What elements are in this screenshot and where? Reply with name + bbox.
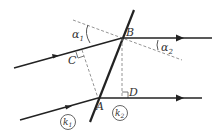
- label-point-a: A: [95, 100, 104, 113]
- label-region-k1: k1: [63, 117, 72, 128]
- wavefront-ca-dashed: [82, 50, 98, 98]
- arrow-lower-refracted: [176, 95, 184, 102]
- right-angle-d: [122, 92, 128, 98]
- refraction-diagram: α1 α2 B C A D k1 k2: [0, 0, 223, 137]
- arrow-upper-refracted: [176, 35, 184, 42]
- label-region-k2: k2: [115, 108, 124, 119]
- label-point-b: B: [125, 26, 134, 39]
- angle-arc-alpha2: [157, 40, 158, 50]
- angle-arc-alpha1: [86, 25, 90, 43]
- label-alpha2: α2: [161, 41, 173, 56]
- label-point-c: C: [68, 54, 77, 67]
- right-angle-c: [76, 52, 84, 58]
- incident-ray-lower: [20, 98, 98, 120]
- label-point-d: D: [128, 86, 138, 99]
- label-alpha1: α1: [72, 28, 84, 43]
